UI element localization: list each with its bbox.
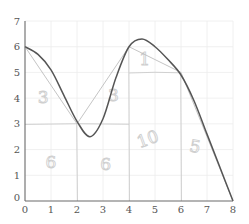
annotation-label: 5: [188, 135, 202, 157]
annotation-label: 10: [134, 126, 161, 152]
y-tick-label: 4: [14, 93, 20, 104]
y-tick-label: 0: [14, 192, 20, 203]
y-tick-label: 6: [14, 41, 20, 52]
x-tick-label: 5: [152, 204, 158, 215]
annotation-label: 6: [46, 152, 57, 172]
x-tick-label: 0: [22, 204, 28, 215]
x-tick-label: 8: [230, 204, 236, 215]
x-tick-label: 7: [204, 204, 210, 215]
y-tick-label: 5: [14, 67, 20, 78]
annotation-label: 1: [139, 49, 150, 69]
y-tick-label: 3: [14, 118, 20, 129]
annotation-label: 6: [100, 154, 111, 174]
annotation-label: 3: [38, 87, 49, 107]
y-tick-label: 1: [14, 170, 20, 181]
x-tick-label: 6: [178, 204, 184, 215]
x-tick-label: 3: [100, 204, 106, 215]
tick-labels: 01234567801234567: [14, 16, 237, 216]
y-tick-label: 7: [14, 16, 20, 27]
chart: 33166105 01234567801234567: [0, 0, 249, 224]
y-tick-label: 2: [14, 144, 20, 155]
x-tick-label: 2: [74, 204, 80, 215]
x-tick-label: 4: [126, 204, 132, 215]
x-tick-label: 1: [48, 204, 54, 215]
